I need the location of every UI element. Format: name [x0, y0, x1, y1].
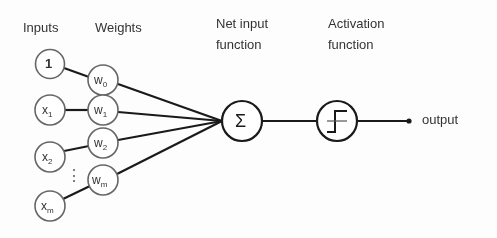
inputs-header: Inputs: [23, 20, 58, 36]
net-input-header-line1: Net input: [216, 16, 268, 32]
weight-wm-label: wm: [92, 172, 107, 193]
activation-header-line1: Activation: [328, 16, 384, 32]
input-x1-label: x1: [42, 102, 52, 123]
weight-w0-label: w0: [94, 72, 107, 93]
output-arrow-icon: [406, 118, 411, 123]
weights-header: Weights: [95, 20, 142, 36]
input-bias-label: 1: [45, 56, 52, 72]
input-xm-label: xm: [41, 198, 54, 219]
output-label: output: [422, 112, 458, 128]
weight-w2-label: w2: [94, 135, 107, 156]
sum-symbol: Σ: [235, 111, 246, 131]
ellipsis: ⋮: [66, 168, 82, 184]
net-input-header-line2: function: [216, 37, 262, 53]
input-x2-label: x2: [42, 149, 52, 170]
weight-w1-label: w1: [94, 102, 107, 123]
perceptron-diagram: Inputs Weights Net input function Activa…: [0, 0, 497, 238]
activation-header-line2: function: [328, 37, 374, 53]
input-nodes: [35, 50, 65, 222]
weight-sum-edges: [117, 84, 222, 174]
